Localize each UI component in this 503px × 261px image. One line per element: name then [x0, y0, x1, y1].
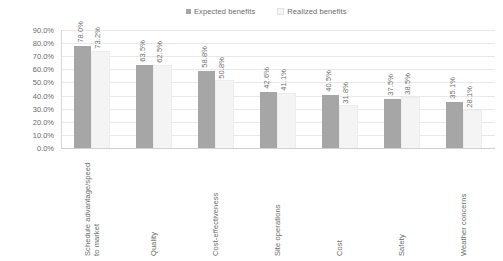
bar-group: 63.5%62.5% — [123, 30, 185, 148]
bar-expected[interactable] — [384, 99, 401, 148]
bar-pair: 40.5%31.8% — [322, 30, 358, 148]
x-axis-category: Cost-effectiveness — [185, 152, 247, 257]
bar-value-label: 37.5% — [387, 74, 395, 96]
x-axis-category: Weather concerns — [433, 152, 495, 257]
y-axis-tick-label: 40.0% — [0, 91, 54, 100]
bar-group: 35.1%28.1% — [433, 30, 495, 148]
bar-value-label: 62.5% — [156, 41, 164, 63]
x-axis-category: Quality — [123, 152, 185, 257]
bar-groups: 78.0%73.2%63.5%62.5%58.8%50.8%42.6%41.1%… — [61, 30, 495, 148]
y-axis-tick-label: 90.0% — [0, 26, 54, 35]
bar-value-label: 63.5% — [139, 40, 147, 62]
legend-label-expected: Expected benefits — [194, 7, 255, 16]
y-axis-tick-label: 20.0% — [0, 117, 54, 126]
y-axis-tick-label: 80.0% — [0, 39, 54, 48]
bar-pair: 78.0%73.2% — [74, 30, 110, 148]
bar-value-label: 38.5% — [404, 73, 412, 95]
bar-chart: Expected benefits Realized benefits 90.0… — [0, 0, 503, 261]
bar-realized[interactable] — [339, 105, 358, 148]
bar-realized[interactable] — [401, 97, 420, 148]
bar-realized[interactable] — [91, 51, 110, 148]
x-axis-category-labels: Schedule advantage/speed to marketQualit… — [61, 152, 495, 257]
chart-legend: Expected benefits Realized benefits — [186, 7, 347, 16]
y-axis-tick-label: 70.0% — [0, 52, 54, 61]
bar-expected[interactable] — [198, 71, 215, 148]
legend-item-realized-benefits[interactable]: Realized benefits — [277, 7, 346, 16]
x-axis-category-text: Site operations — [273, 152, 282, 256]
bar-expected[interactable] — [136, 65, 153, 148]
bar-value-label: 41.1% — [280, 69, 288, 91]
bar-expected[interactable] — [74, 46, 91, 148]
bar-realized[interactable] — [153, 65, 172, 148]
bar-realized[interactable] — [215, 80, 234, 148]
bar-realized[interactable] — [277, 93, 296, 148]
bar-pair: 37.5%38.5% — [384, 30, 420, 148]
bar-value-label: 40.5% — [325, 70, 333, 92]
y-axis-tick-label: 50.0% — [0, 78, 54, 87]
bar-pair: 58.8%50.8% — [198, 30, 234, 148]
bar-value-label: 73.2% — [94, 27, 102, 49]
y-axis-tick-label: 30.0% — [0, 104, 54, 113]
bar-value-label: 31.8% — [342, 82, 350, 104]
bar-value-label: 78.0% — [77, 21, 85, 43]
bar-group: 58.8%50.8% — [185, 30, 247, 148]
x-axis-category: Safety — [371, 152, 433, 257]
bar-value-label: 58.8% — [201, 46, 209, 68]
y-axis-tick-label: 10.0% — [0, 130, 54, 139]
x-axis-category: Site operations — [247, 152, 309, 257]
x-axis-category-text: Quality — [149, 152, 158, 256]
x-axis-category-text: Schedule advantage/speed to market — [83, 152, 102, 256]
legend-swatch-icon-expected — [186, 9, 191, 14]
x-axis-category-text: Safety — [397, 152, 406, 256]
legend-item-expected-benefits[interactable]: Expected benefits — [186, 7, 255, 16]
x-axis-category-text: Cost — [335, 152, 344, 256]
legend-swatch-icon-realized — [277, 8, 284, 15]
x-axis-category-text: Weather concerns — [459, 152, 468, 256]
x-axis-category: Schedule advantage/speed to market — [61, 152, 123, 257]
y-axis-labels: 90.0%80.0%70.0%60.0%50.0%40.0%30.0%20.0%… — [0, 30, 56, 148]
bar-pair: 63.5%62.5% — [136, 30, 172, 148]
y-axis-tick-label: 0.0% — [0, 144, 54, 153]
x-axis-category: Cost — [309, 152, 371, 257]
x-axis-category-text: Cost-effectiveness — [211, 152, 220, 256]
bar-value-label: 42.6% — [263, 67, 271, 89]
bar-expected[interactable] — [446, 102, 463, 148]
y-axis-tick-label: 60.0% — [0, 65, 54, 74]
bar-expected[interactable] — [322, 95, 339, 148]
bar-value-label: 35.1% — [449, 77, 457, 99]
bar-expected[interactable] — [260, 92, 277, 148]
bar-group: 37.5%38.5% — [371, 30, 433, 148]
bar-pair: 42.6%41.1% — [260, 30, 296, 148]
bar-group: 40.5%31.8% — [309, 30, 371, 148]
bar-group: 78.0%73.2% — [61, 30, 123, 148]
legend-label-realized: Realized benefits — [287, 7, 346, 16]
bar-pair: 35.1%28.1% — [446, 30, 482, 148]
bar-value-label: 50.8% — [218, 57, 226, 79]
x-axis-line — [61, 148, 495, 149]
bar-realized[interactable] — [463, 110, 482, 148]
bar-value-label: 28.1% — [466, 86, 474, 108]
plot-area: 78.0%73.2%63.5%62.5%58.8%50.8%42.6%41.1%… — [61, 30, 495, 148]
bar-group: 42.6%41.1% — [247, 30, 309, 148]
